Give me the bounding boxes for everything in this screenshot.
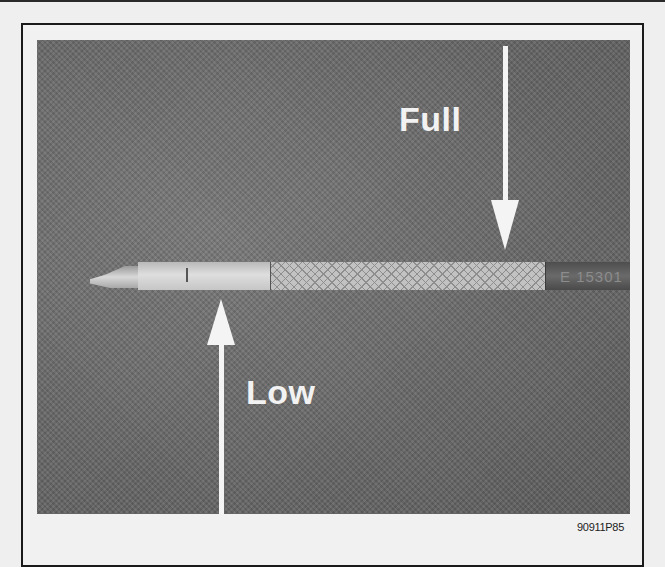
full-arrow-shaft — [503, 46, 508, 204]
dipstick-photo: E 15301 Full Low — [37, 40, 630, 514]
dipstick-stamped-section: E 15301 — [545, 262, 630, 290]
low-label: Low — [246, 373, 315, 412]
dipstick: E 15301 — [90, 262, 630, 290]
full-label: Full — [399, 100, 461, 139]
top-rule — [0, 0, 665, 2]
dipstick-plain-section — [138, 262, 270, 290]
dipstick-stamp-text: E 15301 — [560, 268, 623, 285]
full-arrow-head-icon — [491, 200, 519, 250]
dipstick-crosshatch-range — [270, 262, 546, 290]
low-arrow-shaft — [219, 340, 224, 514]
figure-id: 90911P85 — [577, 521, 624, 533]
dipstick-tip — [90, 266, 140, 288]
low-arrow-head-icon — [207, 299, 235, 345]
dipstick-low-mark — [186, 268, 188, 282]
